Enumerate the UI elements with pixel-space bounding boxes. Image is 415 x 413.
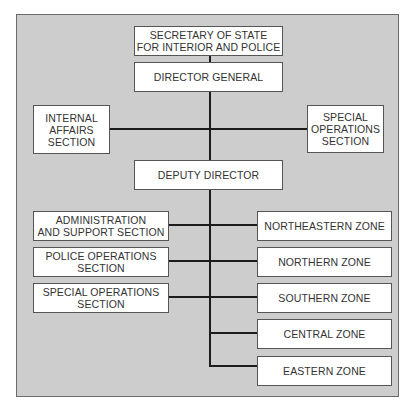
- eastern-zone-box: EASTERN ZONE: [257, 356, 392, 386]
- connector-spine: [209, 55, 211, 367]
- administration-support-section-box: ADMINISTRATION AND SUPPORT SECTION: [33, 211, 169, 241]
- connector-zone-5: [209, 365, 257, 367]
- connector-section-1: [168, 224, 257, 226]
- southern-zone-box: SOUTHERN ZONE: [257, 283, 392, 313]
- police-operations-section-box: POLICE OPERATIONS SECTION: [33, 247, 169, 277]
- northern-zone-box: NORTHERN ZONE: [257, 247, 392, 277]
- northeastern-zone-box: NORTHEASTERN ZONE: [257, 211, 392, 241]
- deputy-director-box: DEPUTY DIRECTOR: [134, 160, 283, 190]
- central-zone-box: CENTRAL ZONE: [257, 319, 392, 349]
- special-operations-staff-box: SPECIAL OPERATIONS SECTION: [307, 105, 384, 153]
- director-general-box: DIRECTOR GENERAL: [134, 62, 283, 92]
- connector-section-3: [168, 296, 257, 298]
- secretary-of-state-box: SECRETARY OF STATE FOR INTERIOR AND POLI…: [134, 26, 283, 56]
- special-operations-section-box: SPECIAL OPERATIONS SECTION: [33, 283, 169, 313]
- connector-zone-4: [209, 332, 257, 334]
- connector-section-2: [168, 260, 257, 262]
- internal-affairs-section-box: INTERNAL AFFAIRS SECTION: [33, 105, 110, 154]
- connector-staff: [109, 128, 307, 130]
